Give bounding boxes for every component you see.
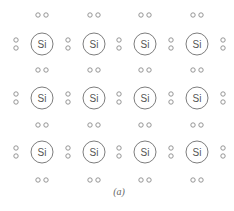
atom-label: Si (90, 147, 99, 158)
electron-dot-icon (139, 68, 143, 72)
silicon-atom: Si (83, 33, 105, 55)
electron-dot-icon (139, 178, 143, 182)
electron-dot-icon (169, 100, 173, 104)
atom-label: Si (38, 93, 47, 104)
silicon-atom: Si (83, 87, 105, 109)
electron-dot-icon (14, 92, 18, 96)
silicon-atom: Si (31, 87, 53, 109)
silicon-atom: Si (31, 141, 53, 163)
electron-dot-icon (14, 146, 18, 150)
atom-label: Si (38, 39, 47, 50)
electron-dot-icon (66, 46, 70, 50)
silicon-atom: Si (134, 33, 156, 55)
electron-dot-icon (191, 178, 195, 182)
electron-dot-icon (169, 92, 173, 96)
electron-dot-icon (36, 68, 40, 72)
electron-dot-icon (44, 13, 48, 17)
figure-caption: (a) (113, 186, 125, 198)
electron-dot-icon (14, 46, 18, 50)
electron-dot-icon (191, 68, 195, 72)
electron-dot-icon (117, 146, 121, 150)
atom-label: Si (90, 39, 99, 50)
electron-dot-icon (36, 178, 40, 182)
silicon-atom: Si (186, 33, 208, 55)
atom-label: Si (193, 93, 202, 104)
silicon-atom: Si (186, 87, 208, 109)
electron-dot-icon (88, 13, 92, 17)
atom-label: Si (193, 39, 202, 50)
electron-dot-icon (117, 154, 121, 158)
electron-dot-icon (199, 178, 203, 182)
electron-dot-icon (169, 38, 173, 42)
electron-dot-icon (199, 123, 203, 127)
atom-label: Si (193, 147, 202, 158)
electron-dot-icon (221, 92, 225, 96)
electron-dot-icon (169, 154, 173, 158)
atom-label: Si (141, 39, 150, 50)
electron-dot-icon (14, 100, 18, 104)
electron-dot-icon (66, 146, 70, 150)
silicon-atom: Si (186, 141, 208, 163)
electron-dot-icon (139, 123, 143, 127)
electron-dot-icon (44, 68, 48, 72)
electron-dot-icon (117, 38, 121, 42)
silicon-atom: Si (134, 141, 156, 163)
electron-dot-icon (191, 13, 195, 17)
electron-dot-icon (147, 178, 151, 182)
electron-dot-icon (36, 123, 40, 127)
electron-dot-icon (96, 123, 100, 127)
electron-dot-icon (221, 46, 225, 50)
silicon-atom: Si (31, 33, 53, 55)
electron-dot-icon (221, 38, 225, 42)
silicon-atom: Si (134, 87, 156, 109)
electron-dot-icon (221, 154, 225, 158)
silicon-atom: Si (83, 141, 105, 163)
electron-dot-icon (96, 178, 100, 182)
electron-dot-icon (117, 100, 121, 104)
atom-label: Si (90, 93, 99, 104)
electron-dot-icon (169, 46, 173, 50)
electron-dot-icon (36, 13, 40, 17)
silicon-atoms: SiSiSiSiSiSiSiSiSiSiSiSi (31, 33, 208, 163)
electron-dot-icon (88, 123, 92, 127)
electron-dot-icon (147, 68, 151, 72)
electron-dot-icon (117, 46, 121, 50)
electron-dot-icon (44, 178, 48, 182)
electron-dot-icon (199, 68, 203, 72)
electron-dot-icon (44, 123, 48, 127)
electron-dot-icon (221, 100, 225, 104)
electron-dot-icon (88, 178, 92, 182)
electron-dot-icon (147, 123, 151, 127)
electron-dot-icon (14, 154, 18, 158)
electron-dot-icon (117, 92, 121, 96)
silicon-lattice-diagram: SiSiSiSiSiSiSiSiSiSiSiSi (a) (0, 0, 234, 211)
electron-dot-icon (66, 92, 70, 96)
electron-dot-icon (221, 146, 225, 150)
atom-label: Si (141, 93, 150, 104)
electron-dot-icon (147, 13, 151, 17)
electron-dot-icon (199, 13, 203, 17)
electron-dot-icon (88, 68, 92, 72)
electron-dot-icon (66, 100, 70, 104)
electron-dot-icon (139, 13, 143, 17)
electron-dot-icon (96, 68, 100, 72)
electron-dot-icon (14, 38, 18, 42)
electron-dot-icon (96, 13, 100, 17)
electron-dot-icon (191, 123, 195, 127)
atom-label: Si (141, 147, 150, 158)
atom-label: Si (38, 147, 47, 158)
electron-dot-icon (169, 146, 173, 150)
electron-dot-icon (66, 154, 70, 158)
electron-dot-icon (66, 38, 70, 42)
